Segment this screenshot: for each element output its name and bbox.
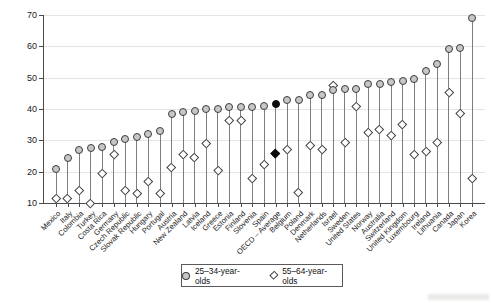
- stem-line: [171, 114, 172, 203]
- data-point-diamond: [410, 150, 419, 159]
- data-point-diamond: [213, 165, 222, 174]
- x-axis-tick: [449, 204, 450, 207]
- data-point-circle: [387, 78, 395, 86]
- x-axis-tick: [333, 204, 334, 207]
- stem-line: [264, 106, 265, 203]
- x-axis-tick: [218, 204, 219, 207]
- x-axis-tick: [356, 204, 357, 207]
- stem-line: [437, 64, 438, 203]
- data-point-diamond: [98, 169, 107, 178]
- x-axis-tick: [368, 204, 369, 207]
- data-point-circle: [318, 91, 326, 99]
- data-point-circle: [225, 103, 233, 111]
- legend-item-55-64: 55–64-year-olds: [271, 266, 342, 286]
- y-axis-tick-label: 10: [11, 198, 37, 208]
- stem-line: [379, 84, 380, 203]
- x-axis-tick: [137, 204, 138, 207]
- x-axis-tick: [241, 204, 242, 207]
- data-point-diamond: [121, 186, 130, 195]
- x-axis-tick: [102, 204, 103, 207]
- y-axis-line: [43, 15, 44, 203]
- y-gridline: [43, 15, 485, 16]
- data-point-circle: [260, 102, 268, 110]
- x-axis-tick: [391, 204, 392, 207]
- x-axis-tick: [276, 204, 277, 207]
- x-axis-tick: [79, 204, 80, 207]
- data-point-diamond: [317, 145, 326, 154]
- y-axis-tick-label: 20: [11, 167, 37, 177]
- data-point-circle: [64, 154, 72, 162]
- stem-line: [391, 82, 392, 203]
- x-axis-tick: [114, 204, 115, 207]
- x-axis-tick: [252, 204, 253, 207]
- x-axis-tick: [403, 204, 404, 207]
- x-axis-tick: [195, 204, 196, 207]
- data-point-diamond: [294, 187, 303, 196]
- data-point-diamond: [248, 173, 257, 182]
- x-axis-tick: [68, 204, 69, 207]
- data-point-diamond: [444, 87, 453, 96]
- stem-line: [90, 148, 91, 203]
- stem-line: [425, 71, 426, 203]
- data-point-circle: [179, 108, 187, 116]
- x-axis-tick: [172, 204, 173, 207]
- legend-label-55-64: 55–64-year-olds: [282, 266, 342, 286]
- stem-line: [252, 107, 253, 203]
- data-point-circle: [75, 146, 83, 154]
- data-point-circle: [376, 80, 384, 88]
- artifact-smudge: [428, 294, 489, 300]
- x-axis-tick: [380, 204, 381, 207]
- stem-line: [333, 86, 334, 204]
- y-axis-tick-label: 60: [11, 41, 37, 51]
- data-point-circle: [433, 60, 441, 68]
- data-point-circle: [156, 127, 164, 135]
- stem-line: [402, 81, 403, 203]
- x-axis-tick: [460, 204, 461, 207]
- data-point-circle: [144, 130, 152, 138]
- data-point-circle: [272, 100, 280, 108]
- data-point-diamond: [456, 109, 465, 118]
- data-point-circle: [422, 67, 430, 75]
- stem-line: [148, 134, 149, 203]
- x-axis-tick: [310, 204, 311, 207]
- data-point-circle: [399, 77, 407, 85]
- x-axis-tick: [160, 204, 161, 207]
- stem-line: [206, 109, 207, 203]
- data-point-diamond: [144, 176, 153, 185]
- data-point-diamond: [109, 150, 118, 159]
- legend-label-25-34: 25–34-year-olds: [195, 266, 255, 286]
- chart-figure: 10203040506070MexicoItalyColombiaTurkeyC…: [0, 0, 491, 303]
- data-point-diamond: [398, 120, 407, 129]
- data-point-circle: [364, 80, 372, 88]
- data-point-diamond: [155, 189, 164, 198]
- legend-item-25-34: 25–34-year-olds: [182, 266, 255, 286]
- data-point-circle: [410, 75, 418, 83]
- x-axis-tick: [322, 204, 323, 207]
- data-point-circle: [329, 86, 337, 94]
- stem-line: [448, 49, 449, 203]
- plot-area: 10203040506070MexicoItalyColombiaTurkeyC…: [0, 0, 491, 303]
- data-point-diamond: [375, 125, 384, 134]
- data-point-diamond: [306, 140, 315, 149]
- data-point-circle: [445, 45, 453, 53]
- data-point-circle: [191, 107, 199, 115]
- data-point-diamond: [179, 150, 188, 159]
- data-point-circle: [110, 138, 118, 146]
- data-point-circle: [214, 105, 222, 113]
- data-point-diamond: [433, 137, 442, 146]
- data-point-diamond: [236, 115, 245, 124]
- stem-line: [414, 79, 415, 203]
- data-point-circle: [87, 144, 95, 152]
- x-axis-tick: [183, 204, 184, 207]
- y-axis-tick-label: 30: [11, 135, 37, 145]
- data-point-diamond: [283, 145, 292, 154]
- data-point-diamond: [86, 198, 95, 207]
- x-axis-tick: [414, 204, 415, 207]
- data-point-diamond: [225, 115, 234, 124]
- x-axis-tick: [206, 204, 207, 207]
- stem-line: [368, 84, 369, 203]
- data-point-diamond: [75, 186, 84, 195]
- y-gridline: [43, 78, 485, 79]
- x-axis-tick: [125, 204, 126, 207]
- data-point-diamond: [467, 173, 476, 182]
